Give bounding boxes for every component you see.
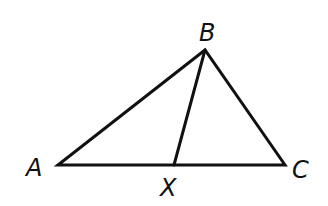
segment-bx [174, 50, 205, 165]
triangle-abc [58, 50, 285, 165]
label-c: C [292, 156, 309, 184]
label-x: X [158, 174, 177, 202]
triangle-diagram: B A C X [0, 0, 328, 206]
label-b: B [199, 19, 215, 47]
label-a: A [24, 154, 42, 182]
